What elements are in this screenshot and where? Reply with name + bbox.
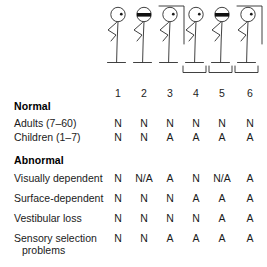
cell-adults-1: N	[107, 117, 129, 129]
row-label-sensory-selection-line2: problems	[14, 244, 97, 256]
cell-surface-dependent-4: A	[185, 192, 207, 204]
section-heading-abnormal: Abnormal	[14, 154, 64, 166]
stick-figure-2	[134, 7, 152, 62]
cell-visually-dependent-3: A	[159, 172, 181, 184]
eye-open-icon-6	[250, 13, 253, 16]
cell-sensory-selection-6: A	[239, 232, 261, 244]
condition-number-2: 2	[135, 86, 153, 100]
moving-platform-icon-6	[235, 66, 258, 73]
cell-children-2: N	[133, 131, 155, 143]
eye-open-icon-1	[120, 13, 123, 16]
condition-number-3: 3	[161, 86, 179, 100]
head-6	[241, 7, 255, 21]
cell-sensory-selection-4: A	[185, 232, 207, 244]
cell-surface-dependent-6: A	[239, 192, 261, 204]
cell-adults-3: N	[159, 117, 181, 129]
stick-figure-6	[235, 6, 262, 73]
cell-children-6: A	[239, 131, 261, 143]
cell-children-1: N	[107, 131, 129, 143]
eye-open-icon-3	[172, 13, 175, 16]
cell-vestibular-loss-1: N	[107, 212, 129, 224]
stick-figures-panel	[0, 0, 267, 88]
stick-figures-illustration	[0, 0, 267, 88]
condition-number-6: 6	[241, 86, 259, 100]
cell-adults-6: N	[239, 117, 261, 129]
cell-children-3: A	[159, 131, 181, 143]
moving-platform-icon-5	[209, 66, 232, 73]
stick-figure-4	[183, 7, 206, 72]
row-label-surface-dependent: Surface-dependent	[14, 192, 103, 204]
stick-figure-5	[209, 7, 232, 72]
condition-number-1: 1	[109, 86, 127, 100]
cell-vestibular-loss-2: N	[133, 212, 155, 224]
cell-sensory-selection-5: A	[211, 232, 233, 244]
cell-visually-dependent-2: N/A	[131, 172, 157, 184]
cell-vestibular-loss-4: N	[185, 212, 207, 224]
cell-surface-dependent-3: N	[159, 192, 181, 204]
cell-surface-dependent-2: N	[133, 192, 155, 204]
cell-visually-dependent-4: N	[185, 172, 207, 184]
cell-sensory-selection-3: A	[159, 232, 181, 244]
row-label-visually-dependent: Visually dependent	[14, 172, 103, 184]
cell-sensory-selection-2: N	[133, 232, 155, 244]
moving-platform-icon-4	[183, 66, 206, 73]
row-label-children: Children (1–7)	[14, 131, 81, 143]
head-1	[111, 7, 125, 21]
head-4	[189, 7, 203, 21]
section-heading-normal: Normal	[14, 100, 51, 112]
row-label-adults: Adults (7–60)	[14, 117, 76, 129]
cell-adults-2: N	[133, 117, 155, 129]
cell-adults-4: N	[185, 117, 207, 129]
cell-surface-dependent-1: N	[107, 192, 129, 204]
cell-vestibular-loss-6: A	[239, 212, 261, 224]
blindfold-icon-2	[137, 13, 151, 17]
cell-visually-dependent-6: A	[239, 172, 261, 184]
condition-number-5: 5	[213, 86, 231, 100]
sensory-organization-test-figure: 1 2 3 4 5 6 Normal Adults (7–60) N N N N…	[0, 0, 267, 267]
cell-sensory-selection-1: N	[107, 232, 129, 244]
condition-number-4: 4	[187, 86, 205, 100]
cell-children-5: A	[211, 131, 233, 143]
blindfold-icon-5	[215, 13, 229, 17]
cell-visually-dependent-1: N	[107, 172, 129, 184]
head-3	[163, 7, 177, 21]
eye-open-icon-4	[198, 13, 201, 16]
cell-vestibular-loss-5: A	[211, 212, 233, 224]
row-label-sensory-selection-line1: Sensory selection	[14, 232, 97, 244]
cell-surface-dependent-5: A	[211, 192, 233, 204]
cell-vestibular-loss-3: N	[159, 212, 181, 224]
cell-visually-dependent-5: N/A	[209, 172, 235, 184]
cell-adults-5: N	[211, 117, 233, 129]
stick-figure-1	[108, 7, 126, 62]
stick-figure-3	[159, 6, 184, 63]
row-label-sensory-selection-problems: Sensory selection problems	[14, 232, 97, 256]
cell-children-4: A	[185, 131, 207, 143]
row-label-vestibular-loss: Vestibular loss	[14, 212, 82, 224]
